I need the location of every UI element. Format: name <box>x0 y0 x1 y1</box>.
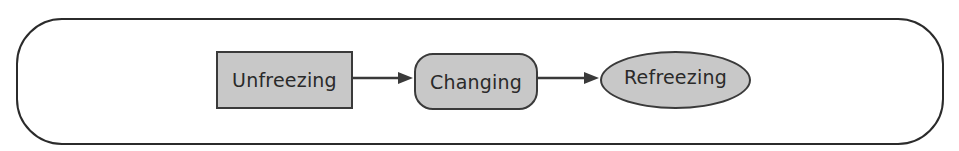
arrow-changing-to-refreezing <box>538 72 599 84</box>
arrow-unfreezing-to-changing <box>353 72 413 84</box>
edges-layer <box>0 0 959 151</box>
